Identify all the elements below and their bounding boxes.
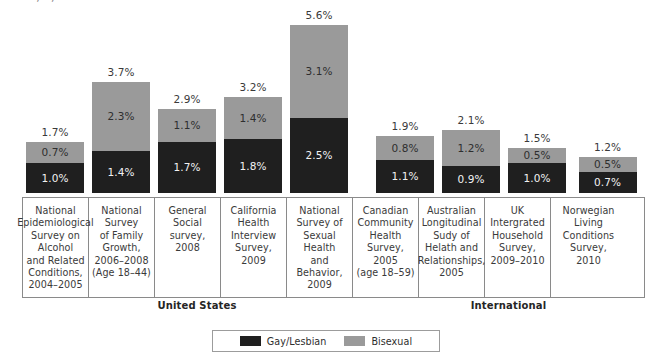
bar-segment-label-bisexual: 0.7% (41, 147, 68, 158)
group-label-united-states: United States (22, 300, 372, 311)
survey-name-text: Norwegian Living Conditions Survey, 2010 (563, 205, 615, 267)
clipped-caption-text: · · · , · , · · · (14, 0, 77, 4)
survey-name-text: UK Intergrated Household Survey, 2009–20… (488, 205, 547, 267)
bar-segment-label-gay-lesbian: 1.0% (41, 173, 68, 184)
survey-name-cell: National Epidemiological Survey on Alcoh… (23, 198, 89, 297)
survey-name-text: National Epidemiological Survey on Alcoh… (17, 205, 94, 292)
bar-segment-bisexual: 0.7% (26, 142, 84, 163)
bar-segment-bisexual: 0.5% (508, 148, 566, 163)
chart-legend: Gay/Lesbian Bisexual (212, 330, 440, 352)
bar-segment-gay-lesbian: 1.1% (376, 160, 434, 193)
bar-total-label: 1.9% (376, 120, 434, 132)
bar-total-label: 1.2% (579, 141, 637, 153)
bar-segment-label-gay-lesbian: 1.4% (107, 167, 134, 178)
bar-segment-label-gay-lesbian: 1.8% (239, 161, 266, 172)
legend-item-gay-lesbian: Gay/Lesbian (240, 336, 327, 347)
legend-item-bisexual: Bisexual (344, 336, 412, 347)
bar-segment-label-gay-lesbian: 0.7% (594, 177, 621, 188)
bar-segment-gay-lesbian: 1.4% (92, 151, 150, 193)
bar-column: 0.8%1.1% (376, 136, 434, 193)
bar-segment-gay-lesbian: 1.7% (158, 142, 216, 193)
bar-column: 0.5%1.0% (508, 148, 566, 193)
survey-name-cell: General Social survey, 2008 (155, 198, 221, 297)
bar-column: 1.1%1.7% (158, 109, 216, 193)
bar-segment-label-bisexual: 3.1% (305, 66, 332, 77)
bar-segment-bisexual: 3.1% (290, 25, 348, 118)
clipped-caption-sliver: · · · , · , · · · (0, 0, 652, 7)
bar-segment-gay-lesbian: 2.5% (290, 118, 348, 193)
bar-segment-gay-lesbian: 1.8% (224, 139, 282, 193)
survey-name-text: National Survey of Sexual Health and Beh… (296, 205, 342, 292)
legend-label-bisexual: Bisexual (371, 336, 412, 347)
survey-name-text: California Health Interview Survey, 2009 (230, 205, 276, 267)
survey-name-text: Canadian Community Health Survey, 2005 (… (356, 205, 414, 279)
bar-column: 0.7%1.0% (26, 142, 84, 193)
bar-column: 3.1%2.5% (290, 25, 348, 193)
bar-segment-label-bisexual: 0.5% (523, 150, 550, 161)
survey-name-cell: UK Intergrated Household Survey, 2009–20… (485, 198, 551, 297)
legend-swatch-gay-lesbian (240, 336, 261, 346)
legend-swatch-bisexual (344, 336, 365, 346)
bar-total-label: 5.6% (290, 9, 348, 21)
bar-segment-bisexual: 0.8% (376, 136, 434, 160)
survey-name-text: National Survey of Family Growth, 2006–2… (92, 205, 151, 279)
survey-name-cell: Australian Longitudinal Sudy of Helath a… (419, 198, 485, 297)
bar-total-label: 2.1% (442, 114, 500, 126)
bar-total-label: 3.7% (92, 66, 150, 78)
bar-segment-label-bisexual: 1.4% (239, 113, 266, 124)
survey-name-text: Australian Longitudinal Sudy of Helath a… (418, 205, 486, 279)
bar-segment-label-gay-lesbian: 1.0% (523, 173, 550, 184)
bar-segment-gay-lesbian: 0.7% (579, 172, 637, 193)
survey-name-cell: Canadian Community Health Survey, 2005 (… (353, 198, 419, 297)
bar-segment-bisexual: 1.1% (158, 109, 216, 142)
bar-segment-label-bisexual: 1.1% (173, 120, 200, 131)
bar-segment-bisexual: 2.3% (92, 82, 150, 151)
stacked-bar-chart: · · · , · , · · · 0.7%1.0%1.7%2.3%1.4%3.… (0, 0, 652, 357)
bar-segment-gay-lesbian: 1.0% (26, 163, 84, 193)
bar-segment-bisexual: 1.2% (442, 130, 500, 166)
survey-name-cell: National Survey of Family Growth, 2006–2… (89, 198, 155, 297)
bar-segment-label-bisexual: 0.8% (391, 143, 418, 154)
bar-column: 1.4%1.8% (224, 97, 282, 193)
bar-segment-gay-lesbian: 0.9% (442, 166, 500, 193)
bar-total-label: 2.9% (158, 93, 216, 105)
bar-segment-label-gay-lesbian: 1.7% (173, 162, 200, 173)
survey-name-table: National Epidemiological Survey on Alcoh… (22, 197, 645, 298)
bar-segment-label-gay-lesbian: 1.1% (391, 171, 418, 182)
bar-total-label: 3.2% (224, 81, 282, 93)
survey-name-cell: California Health Interview Survey, 2009 (221, 198, 287, 297)
legend-label-gay-lesbian: Gay/Lesbian (267, 336, 327, 347)
survey-name-cell: National Survey of Sexual Health and Beh… (287, 198, 353, 297)
bar-segment-gay-lesbian: 1.0% (508, 163, 566, 193)
bar-column: 2.3%1.4% (92, 82, 150, 193)
bar-column: 0.5%0.7% (579, 157, 637, 193)
bar-column: 1.2%0.9% (442, 130, 500, 193)
bar-segment-label-bisexual: 1.2% (457, 143, 484, 154)
group-label-international: International (372, 300, 645, 311)
bar-segment-label-gay-lesbian: 2.5% (305, 150, 332, 161)
bar-segment-label-bisexual: 0.5% (594, 159, 621, 170)
bar-segment-bisexual: 1.4% (224, 97, 282, 139)
survey-name-text: General Social survey, 2008 (168, 205, 206, 255)
bar-total-label: 1.5% (508, 132, 566, 144)
bar-segment-label-bisexual: 2.3% (107, 111, 134, 122)
plot-area: 0.7%1.0%1.7%2.3%1.4%3.7%1.1%1.7%2.9%1.4%… (0, 7, 652, 193)
bar-segment-label-gay-lesbian: 0.9% (457, 174, 484, 185)
bar-segment-bisexual: 0.5% (579, 157, 637, 172)
bar-total-label: 1.7% (26, 126, 84, 138)
survey-name-cell: Norwegian Living Conditions Survey, 2010 (551, 198, 626, 297)
